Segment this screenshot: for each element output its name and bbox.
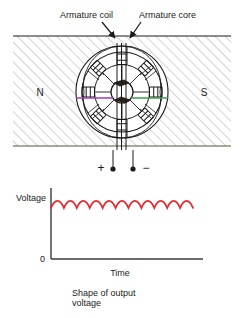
pole-label-south: S — [201, 87, 208, 98]
terminal-dot-negative — [130, 166, 135, 171]
pole-label-north: N — [36, 87, 43, 98]
chart-y-axis-label: Voltage — [16, 193, 46, 203]
chart-y-tick-zero: 0 — [40, 254, 45, 264]
chart-x-axis-label: Time — [110, 268, 130, 278]
callout-label-armature-coil: Armature coil — [60, 10, 113, 20]
terminal-label-negative: − — [142, 161, 149, 175]
terminal-label-positive: + — [97, 161, 104, 175]
chart-caption-line2: voltage — [72, 298, 101, 308]
chart-caption-line1: Shape of output — [72, 288, 136, 298]
terminal-dot-positive — [110, 166, 115, 171]
dc-generator-figure: + − N S Armature coil Armature core Volt… — [0, 0, 245, 318]
callout-label-armature-core: Armature core — [139, 10, 196, 20]
